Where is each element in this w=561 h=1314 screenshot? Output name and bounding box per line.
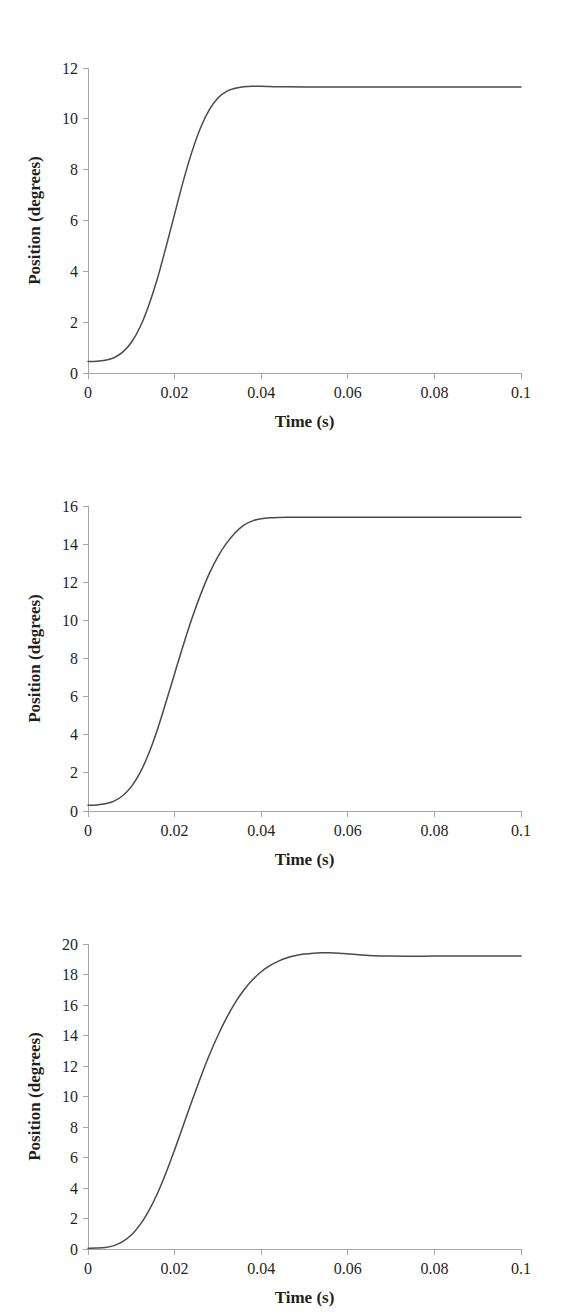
x-axis-label: Time (s) bbox=[275, 850, 335, 869]
x-axis-label: Time (s) bbox=[275, 412, 335, 431]
chart-panel-3: 0246810121416182000.020.040.060.080.1Tim… bbox=[0, 876, 561, 1314]
y-axis-label: Position (degrees) bbox=[25, 1032, 44, 1161]
y-tick-label: 14 bbox=[62, 536, 78, 553]
y-tick-label: 8 bbox=[70, 1119, 78, 1136]
y-tick-label: 6 bbox=[70, 1149, 78, 1166]
data-curve-position bbox=[88, 86, 521, 361]
chart-3-content: 0246810121416182000.020.040.060.080.1Tim… bbox=[25, 936, 531, 1308]
y-tick-label: 4 bbox=[70, 726, 78, 743]
y-tick-label: 10 bbox=[62, 612, 78, 629]
x-tick-label: 0 bbox=[84, 1260, 92, 1277]
y-tick-label: 20 bbox=[62, 936, 78, 953]
x-tick-label: 0.04 bbox=[247, 384, 275, 401]
chart-svg-1: 02468101200.020.040.060.080.1Time (s)Pos… bbox=[0, 0, 561, 438]
x-tick-label: 0.02 bbox=[161, 1260, 189, 1277]
x-tick-label: 0.08 bbox=[420, 384, 448, 401]
x-tick-label: 0.1 bbox=[511, 384, 531, 401]
y-tick-label: 2 bbox=[70, 314, 78, 331]
y-tick-label: 12 bbox=[62, 1058, 78, 1075]
y-tick-label: 16 bbox=[62, 498, 78, 515]
y-tick-label: 0 bbox=[70, 1241, 78, 1258]
chart-2-content: 024681012141600.020.040.060.080.1Time (s… bbox=[25, 498, 531, 870]
y-tick-label: 12 bbox=[62, 60, 78, 77]
y-tick-label: 10 bbox=[62, 1088, 78, 1105]
x-axis-label: Time (s) bbox=[275, 1288, 335, 1307]
y-tick-label: 14 bbox=[62, 1027, 78, 1044]
y-tick-label: 16 bbox=[62, 997, 78, 1014]
x-tick-label: 0.06 bbox=[334, 1260, 362, 1277]
chart-1-content: 02468101200.020.040.060.080.1Time (s)Pos… bbox=[25, 60, 531, 432]
y-tick-label: 4 bbox=[70, 263, 78, 280]
y-tick-label: 6 bbox=[70, 212, 78, 229]
y-tick-label: 18 bbox=[62, 966, 78, 983]
x-tick-label: 0 bbox=[84, 822, 92, 839]
y-tick-label: 0 bbox=[70, 365, 78, 382]
x-tick-label: 0.02 bbox=[161, 384, 189, 401]
y-tick-label: 6 bbox=[70, 688, 78, 705]
x-tick-label: 0.02 bbox=[161, 822, 189, 839]
chart-panel-1: 02468101200.020.040.060.080.1Time (s)Pos… bbox=[0, 0, 561, 438]
x-tick-label: 0.08 bbox=[420, 822, 448, 839]
figure-stack: 02468101200.020.040.060.080.1Time (s)Pos… bbox=[0, 0, 561, 1314]
x-tick-label: 0.08 bbox=[420, 1260, 448, 1277]
x-tick-label: 0 bbox=[84, 384, 92, 401]
y-tick-label: 10 bbox=[62, 110, 78, 127]
x-tick-label: 0.06 bbox=[334, 822, 362, 839]
y-tick-label: 4 bbox=[70, 1180, 78, 1197]
chart-panel-2: 024681012141600.020.040.060.080.1Time (s… bbox=[0, 438, 561, 876]
chart-svg-2: 024681012141600.020.040.060.080.1Time (s… bbox=[0, 438, 561, 876]
x-tick-label: 0.06 bbox=[334, 384, 362, 401]
y-tick-label: 12 bbox=[62, 574, 78, 591]
y-tick-label: 8 bbox=[70, 650, 78, 667]
x-tick-label: 0.04 bbox=[247, 822, 275, 839]
y-tick-label: 0 bbox=[70, 803, 78, 820]
x-tick-label: 0.04 bbox=[247, 1260, 275, 1277]
x-tick-label: 0.1 bbox=[511, 822, 531, 839]
y-axis-label: Position (degrees) bbox=[25, 594, 44, 723]
y-tick-label: 2 bbox=[70, 764, 78, 781]
y-tick-label: 2 bbox=[70, 1210, 78, 1227]
x-tick-label: 0.1 bbox=[511, 1260, 531, 1277]
y-axis-label: Position (degrees) bbox=[25, 156, 44, 285]
data-curve-position bbox=[88, 953, 521, 1249]
data-curve-position bbox=[88, 517, 521, 805]
y-tick-label: 8 bbox=[70, 161, 78, 178]
chart-svg-3: 0246810121416182000.020.040.060.080.1Tim… bbox=[0, 876, 561, 1314]
